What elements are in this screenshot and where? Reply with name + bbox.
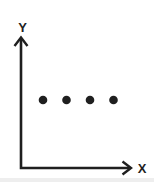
data-point-dot <box>39 96 48 105</box>
scan-shadow-artifact <box>0 178 154 182</box>
data-dots-group <box>39 96 118 105</box>
x-axis-label: X <box>138 161 147 176</box>
data-point-dot <box>62 96 71 105</box>
y-axis-label: Y <box>18 20 27 35</box>
data-point-dot <box>86 96 95 105</box>
data-point-dot <box>109 96 118 105</box>
xy-axes-plot: Y X <box>0 0 154 184</box>
diagram-canvas: Y X <box>0 0 154 184</box>
